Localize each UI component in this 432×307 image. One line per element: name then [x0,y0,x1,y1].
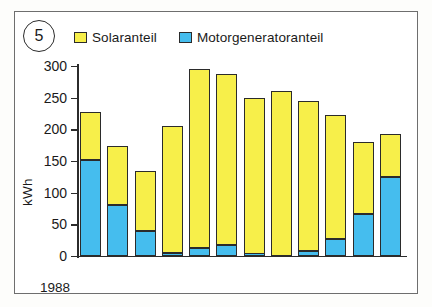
chart-legend: SolaranteilMotorgeneratoranteil [74,30,323,45]
bar-mai [189,69,210,256]
y-tick-50 [71,224,77,225]
bar-segment-motor-mär [135,231,156,256]
bar-segment-motor-feb [107,205,128,256]
plot-area: 050100150200250300JanFebMärAprMaiJunJulA… [77,66,404,256]
figure-container: 5 SolaranteilMotorgeneratoranteil kWh 05… [0,0,432,307]
bar-segment-solar-nov [353,142,374,214]
y-tick-label-50: 50 [51,217,67,231]
legend-swatch-solar [74,32,87,43]
bar-segment-motor-jun [216,245,237,256]
legend-item-motor: Motorgeneratoranteil [179,30,324,45]
bar-jun [216,74,237,256]
y-axis-title: kWh [20,178,35,206]
y-tick-300 [71,66,77,67]
bar-segment-motor-jul [244,253,265,256]
figure-number-label: 5 [35,27,44,45]
bar-segment-motor-apr [162,253,183,256]
y-tick-label-100: 100 [44,186,67,200]
y-tick-label-0: 0 [59,249,67,263]
bar-nov [353,142,374,256]
legend-label-solar: Solaranteil [92,30,157,45]
bar-segment-motor-okt [325,239,346,256]
bar-segment-solar-okt [325,115,346,239]
bar-segment-motor-sep [298,251,319,256]
bar-segment-solar-jan [80,112,101,160]
bar-segment-solar-apr [162,126,183,253]
bar-aug [271,91,292,256]
bar-apr [162,126,183,256]
bar-segment-motor-jan [80,160,101,256]
legend-item-solar: Solaranteil [74,30,157,45]
y-tick-150 [71,161,77,162]
legend-label-motor: Motorgeneratoranteil [197,30,324,45]
bar-mär [135,171,156,257]
y-tick-label-150: 150 [44,154,67,168]
figure-number-badge: 5 [23,20,55,52]
bar-jul [244,98,265,256]
y-tick-200 [71,129,77,130]
bar-segment-solar-sep [298,101,319,251]
bar-segment-motor-nov [353,214,374,256]
bar-segment-solar-dez [380,134,401,176]
bar-jan [80,112,101,256]
bar-sep [298,101,319,256]
bar-segment-solar-feb [107,146,128,205]
bar-feb [107,146,128,256]
y-tick-label-300: 300 [44,59,67,73]
bar-segment-solar-mär [135,171,156,231]
bar-segment-solar-jul [244,98,265,255]
bar-segment-solar-mai [189,69,210,248]
y-tick-0 [71,256,77,257]
bar-segment-solar-jun [216,74,237,245]
legend-swatch-motor [179,32,192,43]
bar-segment-motor-mai [189,248,210,256]
bar-segment-solar-aug [271,91,292,256]
y-tick-label-200: 200 [44,122,67,136]
bar-dez [380,134,401,256]
bar-segment-motor-dez [380,177,401,256]
y-tick-label-250: 250 [44,91,67,105]
y-tick-100 [71,193,77,194]
x-axis-year-label: 1988 [40,280,70,295]
bar-okt [325,115,346,256]
y-tick-250 [71,98,77,99]
